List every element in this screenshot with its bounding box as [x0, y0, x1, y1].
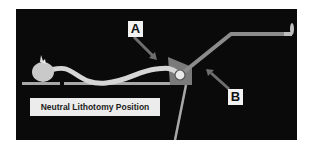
- foot-plate: [290, 23, 294, 35]
- diagram-graphics: [16, 9, 297, 140]
- arrow-b-line: [211, 73, 229, 89]
- leg-holder-rod: [180, 34, 292, 75]
- patient-head: [32, 62, 54, 82]
- hip-joint: [175, 70, 185, 80]
- support-rod: [175, 85, 186, 140]
- table-head-segment: [22, 82, 60, 85]
- lithotomy-diagram: A B Neutral Lithotomy Position: [16, 9, 297, 140]
- arrow-a-line: [134, 37, 153, 56]
- figure-caption: Neutral Lithotomy Position: [30, 98, 160, 116]
- label-b: B: [228, 89, 243, 105]
- label-a: A: [128, 21, 143, 37]
- patient-body: [44, 68, 178, 83]
